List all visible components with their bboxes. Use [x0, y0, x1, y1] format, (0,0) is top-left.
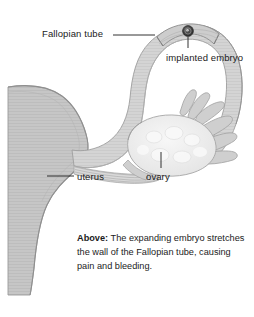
- ectopic-pregnancy-figure: Fallopian tube implanted embryo uterus o…: [0, 0, 254, 317]
- figure-caption: Above: The expanding embryo stretches th…: [77, 231, 247, 274]
- label-fallopian-tube: Fallopian tube: [42, 27, 103, 40]
- label-ovary: ovary: [146, 170, 170, 183]
- uterus-shape: [8, 86, 88, 295]
- caption-lead: Above:: [77, 233, 108, 243]
- label-implanted-embryo: implanted embryo: [166, 50, 246, 65]
- ovary-shape: [128, 115, 216, 176]
- embryo-dot-icon: [183, 26, 194, 37]
- label-uterus: uterus: [77, 170, 104, 183]
